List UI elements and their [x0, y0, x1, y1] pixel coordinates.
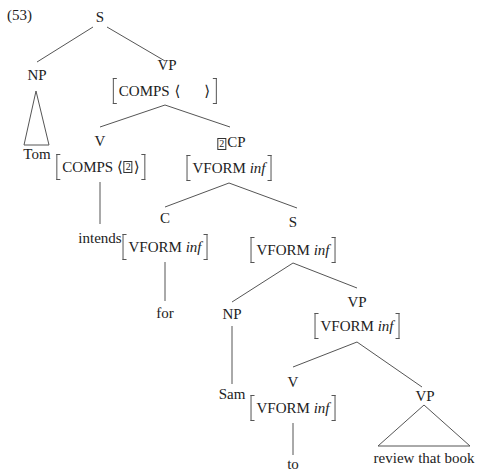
tag-box: 2 — [217, 138, 226, 150]
bracket-left — [251, 237, 255, 263]
avm-c: VFORM inf — [123, 234, 208, 260]
node-c: C — [160, 210, 170, 226]
avm-vp-embedded: VFORM inf — [315, 313, 400, 339]
triangle-np-tom — [24, 91, 49, 145]
feature-name: COMPS — [62, 159, 113, 176]
triangle-vp-review — [378, 405, 470, 446]
node-np-embedded: NP — [222, 306, 241, 322]
node-vp-embedded: VP — [347, 294, 366, 310]
leaf-intends: intends — [78, 230, 121, 246]
branch-cp-s — [229, 183, 297, 208]
branch-s-vp2 — [293, 263, 357, 288]
avm-s-embedded: VFORM inf — [251, 237, 336, 263]
branch-vp-cp — [165, 105, 230, 127]
bracket-left — [56, 154, 60, 180]
bracket-right — [203, 234, 207, 260]
feature-value: inf — [314, 242, 330, 259]
feature-value: inf — [186, 239, 202, 256]
bracket-left — [251, 395, 255, 421]
bracket-left — [187, 155, 191, 181]
angle-close: ⟩ — [134, 158, 140, 176]
branch-vp-v — [100, 105, 165, 127]
angle-close: ⟩ — [204, 82, 210, 100]
node-np-subject: NP — [27, 67, 46, 83]
leaf-for: for — [156, 305, 174, 321]
bracket-right — [331, 237, 335, 263]
avm-v: COMPS ⟨2⟩ — [56, 154, 145, 180]
leaf-to: to — [287, 456, 299, 470]
bracket-right — [142, 154, 146, 180]
feature-name: VFORM — [321, 318, 374, 335]
avm-cp: VFORM inf — [187, 155, 272, 181]
feature-name: VFORM — [129, 239, 182, 256]
bracket-left — [113, 78, 117, 104]
bracket-right — [213, 78, 217, 104]
branch-s-vp — [107, 27, 165, 61]
feature-value: inf — [250, 160, 266, 177]
bracket-left — [315, 313, 319, 339]
avm-vp-top: COMPS ⟨ ⟩ — [113, 78, 217, 104]
node-v-to: V — [288, 374, 299, 390]
node-vp-top: VP — [157, 57, 176, 73]
example-number: (53) — [7, 7, 32, 23]
node-cp: 2CP — [216, 134, 245, 150]
leaf-sam: Sam — [219, 386, 246, 402]
cp-label: CP — [227, 134, 245, 150]
bracket-right — [267, 155, 271, 181]
node-vp-lowest: VP — [415, 388, 434, 404]
node-s-embedded: S — [289, 214, 297, 230]
bracket-right — [395, 313, 399, 339]
angle-open: ⟨ — [117, 158, 123, 176]
branch-vp-v2 — [293, 342, 357, 367]
branch-vp-vp — [357, 342, 422, 387]
feature-value: inf — [378, 318, 394, 335]
avm-v-to: VFORM inf — [251, 395, 336, 421]
feature-name: COMPS — [119, 83, 170, 100]
branch-s-np — [37, 27, 93, 62]
feature-name: VFORM — [257, 242, 310, 259]
branch-cp-c — [165, 183, 229, 207]
angle-open: ⟨ — [174, 82, 180, 100]
branch-s-np2 — [232, 263, 293, 302]
bracket-right — [331, 395, 335, 421]
feature-value: inf — [314, 400, 330, 417]
bracket-left — [123, 234, 127, 260]
leaf-tom: Tom — [23, 146, 50, 162]
node-v: V — [95, 133, 106, 149]
tag-box: 2 — [124, 161, 133, 173]
leaf-review-that-book: review that book — [374, 450, 475, 466]
feature-name: VFORM — [257, 400, 310, 417]
node-s-root: S — [96, 9, 104, 25]
feature-name: VFORM — [193, 160, 246, 177]
